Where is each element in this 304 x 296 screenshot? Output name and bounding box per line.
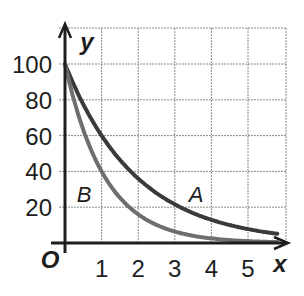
y-tick-label: 60 xyxy=(25,123,52,150)
y-tick-label: 40 xyxy=(25,158,52,185)
x-tick-label: 2 xyxy=(132,255,145,282)
grid-lines xyxy=(59,28,286,243)
curves xyxy=(65,64,277,242)
exponential-decay-chart: 1234520406080100OyxAB xyxy=(0,0,304,296)
curve-b xyxy=(65,64,277,242)
y-axis-label: y xyxy=(79,28,95,55)
y-tick-label: 80 xyxy=(25,87,52,114)
x-tick-label: 3 xyxy=(168,255,181,282)
x-tick-label: 5 xyxy=(241,255,254,282)
x-tick-label: 4 xyxy=(205,255,218,282)
origin-label: O xyxy=(41,246,60,273)
x-axis-label: x xyxy=(271,250,288,277)
curve-b-label: B xyxy=(77,182,92,207)
curve-a xyxy=(65,64,277,234)
y-tick-label: 20 xyxy=(25,194,52,221)
y-tick-label: 100 xyxy=(12,51,52,78)
x-tick-label: 1 xyxy=(95,255,108,282)
curve-a-label: A xyxy=(187,182,204,207)
